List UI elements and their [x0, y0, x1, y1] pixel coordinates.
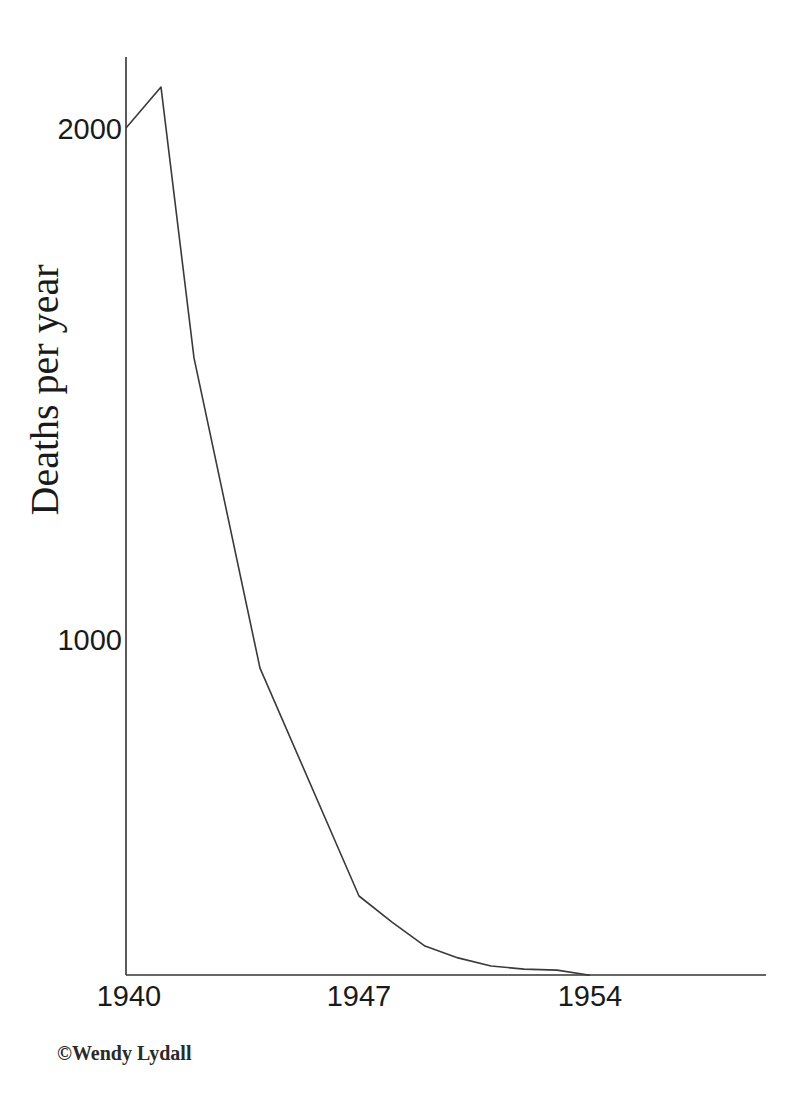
deaths-series-line: [126, 87, 590, 975]
y-tick-label-2000: 2000: [57, 113, 122, 145]
x-tick-label-1947: 1947: [327, 980, 392, 1012]
x-tick-label-1954: 1954: [558, 980, 623, 1012]
copyright-credit: ©Wendy Lydall: [57, 1042, 192, 1065]
y-tick-label-1000: 1000: [57, 624, 122, 656]
y-axis-title: Deaths per year: [22, 265, 67, 516]
x-tick-label-1940: 1940: [97, 980, 162, 1012]
line-chart: 2000 1000 1940 1947 1954 Deaths per year…: [0, 0, 806, 1116]
